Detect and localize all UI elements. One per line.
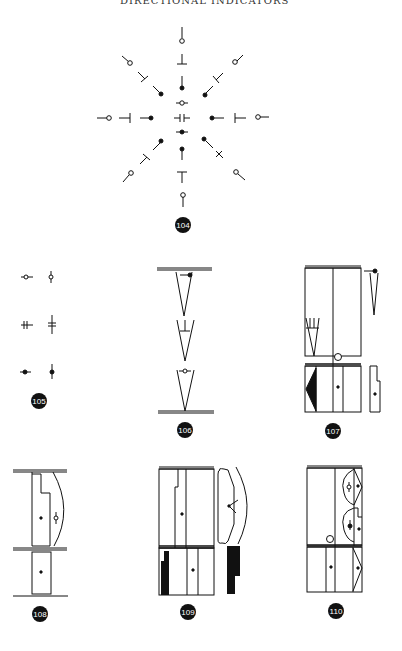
figure-107: 107: [305, 266, 380, 439]
svg-text:110: 110: [330, 607, 343, 616]
svg-text:105: 105: [32, 397, 46, 406]
figure-plate: 104 105 106: [0, 0, 402, 651]
figure-110: 110: [307, 466, 362, 619]
svg-text:108: 108: [33, 610, 47, 619]
figure-104: 104: [97, 27, 269, 233]
figure-105: 105: [20, 271, 56, 409]
figure-108: 108: [13, 470, 68, 622]
svg-text:104: 104: [176, 221, 190, 230]
svg-text:106: 106: [178, 426, 192, 435]
svg-text:109: 109: [181, 608, 195, 617]
figure-106: 106: [157, 268, 214, 438]
figure-109: 109: [159, 467, 247, 620]
svg-text:107: 107: [326, 427, 340, 436]
